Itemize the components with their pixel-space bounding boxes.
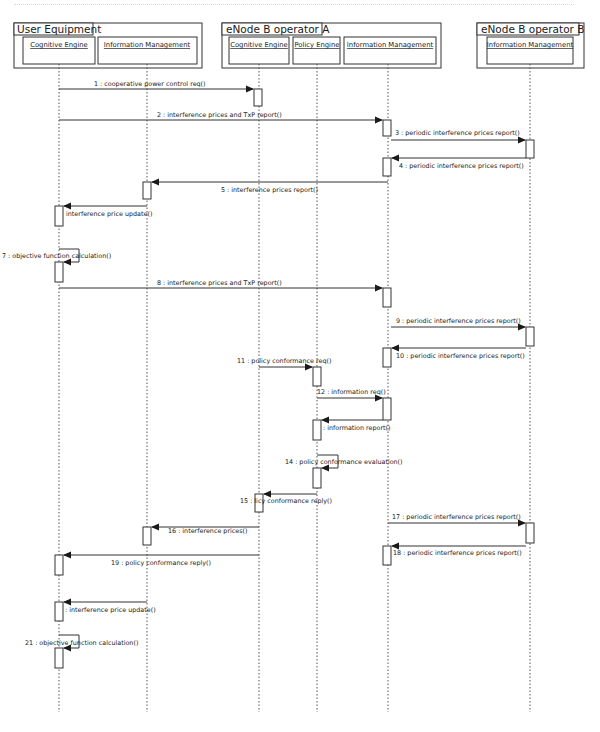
message-18: 18 : periodic interference prices report…	[392, 546, 526, 557]
message-label: 2 : interference prices and TxP report()	[157, 111, 282, 119]
activation-bar	[55, 206, 63, 226]
group-title: eNode B operator B	[481, 23, 584, 35]
message-label: : interference price update()	[65, 606, 156, 614]
activation-bar	[313, 367, 321, 386]
message-label: 8 : interference prices and TxP report()	[157, 279, 282, 287]
activation-bar	[383, 398, 391, 420]
message-3: 3 : periodic interference prices report(…	[391, 129, 525, 140]
message-label: 19 : policy conformance reply()	[111, 559, 211, 567]
message-label: 18 : periodic interference prices report…	[393, 549, 522, 557]
participant-b-information-management: Information Management	[487, 37, 574, 64]
message-21: 21 : objective function calculation()	[25, 635, 138, 648]
activation-bar	[55, 602, 63, 621]
message-15: 15 : licy conformance reply()	[240, 494, 332, 505]
activation-bar	[383, 348, 391, 367]
message-1: 1 : cooperative power control req()	[59, 80, 253, 89]
participant-name: Information Management	[347, 41, 434, 49]
activation-bar	[526, 140, 534, 158]
message-5: 5 : interference prices report()	[152, 182, 388, 194]
message-label: interference price update()	[66, 210, 152, 218]
message-10: 10 : periodic interference prices report…	[392, 348, 526, 360]
activation-bars	[55, 89, 534, 668]
group-enodeb-operator-a: eNode B operator A Cognitive Engine Poli…	[222, 23, 441, 68]
participant-name: Information Management	[487, 41, 574, 49]
participant-name: Cognitive Engine	[230, 41, 288, 49]
group-enodeb-operator-b: eNode B operator B Information Managemen…	[477, 23, 584, 68]
activation-bar	[254, 89, 262, 106]
message-label: 17 : periodic interference prices report…	[392, 513, 521, 521]
message-label: 14 : policy conformance evaluation()	[285, 458, 403, 466]
activation-bar	[526, 523, 534, 543]
message-label: 11 : policy conformance req()	[237, 357, 331, 365]
message-6: interference price update()	[64, 206, 152, 218]
message-label: 16 : interference prices()	[168, 527, 248, 535]
activation-bar	[55, 262, 63, 282]
activation-bar	[383, 546, 391, 565]
participant-ue-information-management: Information Management	[98, 37, 197, 64]
message-9: 9 : periodic interference prices report(…	[391, 317, 525, 327]
message-20: : interference price update()	[64, 602, 156, 614]
message-label: 1 : cooperative power control req()	[94, 80, 206, 88]
activation-bar	[313, 420, 321, 440]
message-label: 21 : objective function calculation()	[25, 639, 138, 647]
message-label: 5 : interference prices report()	[221, 186, 318, 194]
message-19: 19 : policy conformance reply()	[64, 555, 259, 567]
message-label: 12 : information req()	[317, 388, 386, 396]
participant-name: Information Management	[104, 41, 191, 49]
activation-bar	[55, 555, 63, 575]
activation-bar	[55, 648, 63, 668]
message-7: 7 : objective function calculation()	[2, 249, 111, 262]
sequence-diagram: User Equipment Cognitive Engine Informat…	[0, 0, 600, 732]
group-title: User Equipment	[17, 23, 101, 35]
activation-bar	[383, 158, 391, 176]
activation-bar	[526, 327, 534, 346]
message-label: : information report()	[323, 424, 391, 432]
message-8: 8 : interference prices and TxP report()	[59, 279, 382, 288]
activation-bar	[383, 120, 391, 136]
group-user-equipment: User Equipment Cognitive Engine Informat…	[14, 23, 202, 68]
message-16: 16 : interference prices()	[152, 527, 259, 535]
activation-bar	[143, 527, 151, 545]
message-4: 4 : periodic interference prices report(…	[392, 158, 526, 170]
message-14: 14 : policy conformance evaluation()	[285, 455, 403, 468]
participant-a-cognitive-engine: Cognitive Engine	[229, 37, 289, 64]
message-13: : information report()	[322, 420, 391, 432]
activation-bar	[143, 182, 151, 199]
message-12: 12 : information req()	[317, 388, 386, 398]
message-2: 2 : interference prices and TxP report()	[59, 111, 382, 120]
participant-name: Cognitive Engine	[30, 41, 88, 49]
participant-a-policy-engine: Policy Engine	[293, 37, 340, 64]
participant-ue-cognitive-engine: Cognitive Engine	[23, 37, 95, 64]
participant-a-information-management: Information Management	[344, 37, 436, 64]
message-label: 10 : periodic interference prices report…	[396, 352, 525, 360]
activation-bar	[313, 468, 321, 488]
message-label: 15 : licy conformance reply()	[240, 497, 332, 505]
message-label: 7 : objective function calculation()	[2, 252, 111, 260]
message-label: 4 : periodic interference prices report(…	[399, 162, 524, 170]
message-label: 9 : periodic interference prices report(…	[396, 317, 521, 325]
participant-name: Policy Engine	[294, 41, 339, 49]
message-17: 17 : periodic interference prices report…	[388, 513, 525, 523]
activation-bar	[383, 288, 391, 307]
message-label: 3 : periodic interference prices report(…	[395, 129, 520, 137]
group-title: eNode B operator A	[226, 23, 330, 35]
